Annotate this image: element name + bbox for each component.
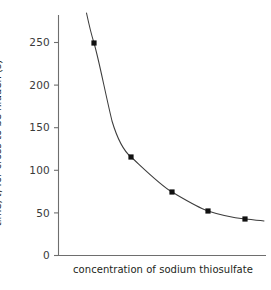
y-axis-title-before: time, (0, 197, 3, 226)
data-point-5 (242, 216, 247, 221)
y-tick-label-250: 250 (14, 37, 50, 48)
data-point-1 (91, 40, 96, 45)
data-point-2 (128, 154, 133, 159)
y-axis-ticks (54, 43, 59, 256)
y-tick-label-0: 0 (14, 250, 50, 261)
data-curve (87, 13, 265, 221)
y-axis-title-variable: t (0, 193, 3, 197)
chart-container: 250 200 150 100 50 0 time, t, for cross … (0, 0, 271, 290)
data-point-3 (169, 189, 174, 194)
y-tick-label-200: 200 (14, 80, 50, 91)
y-tick-label-50: 50 (14, 208, 50, 219)
y-axis-title: time, t, for cross to be hidden (s) (0, 28, 8, 258)
y-axis-title-after: , for cross to be hidden (s) (0, 60, 3, 193)
x-axis-title: concentration of sodium thiosulfate (58, 264, 268, 275)
data-point-4 (205, 208, 210, 213)
y-tick-label-100: 100 (14, 165, 50, 176)
y-tick-label-150: 150 (14, 122, 50, 133)
